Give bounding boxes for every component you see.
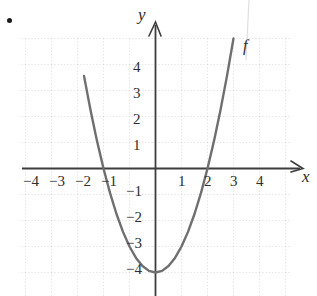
graph-figure: y x f −4−3−2−11234 4321−1−2−3−4 <box>0 0 317 296</box>
y-tick-4: −1 <box>126 184 142 199</box>
y-tick-5: −2 <box>126 210 142 225</box>
y-tick-0: 4 <box>133 60 141 75</box>
x-tick-2: −2 <box>75 174 91 189</box>
y-tick-1: 3 <box>133 86 141 101</box>
y-tick-6: −3 <box>126 236 142 251</box>
y-tick-2: 2 <box>133 112 141 127</box>
parabola-layer <box>0 0 317 296</box>
y-tick-3: 1 <box>133 138 141 153</box>
y-axis-label: y <box>138 6 146 23</box>
x-axis-label: x <box>302 168 310 185</box>
x-tick-0: −4 <box>23 174 39 189</box>
y-tick-7: −4 <box>126 262 142 277</box>
x-tick-6: 3 <box>230 174 238 189</box>
x-tick-1: −3 <box>49 174 65 189</box>
x-tick-5: 2 <box>204 174 212 189</box>
x-tick-4: 1 <box>178 174 186 189</box>
curve-label-f: f <box>243 38 247 54</box>
x-tick-3: −1 <box>101 174 117 189</box>
x-tick-7: 4 <box>256 174 264 189</box>
